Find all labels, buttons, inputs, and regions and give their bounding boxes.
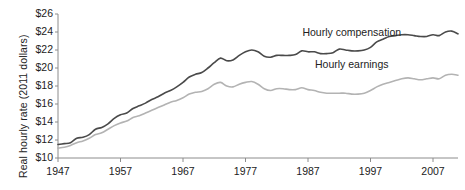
x-axis-tick-label: 2007	[413, 166, 453, 177]
chart-container: Real hourly rate (2011 dollars) $10$12$1…	[0, 0, 465, 190]
series-line-hourly-earnings	[58, 74, 458, 148]
data-series-group	[58, 31, 458, 148]
x-axis-tick-label: 1977	[226, 166, 266, 177]
y-axis-tick-label: $26	[35, 8, 53, 19]
series-label-hourly-earnings: Hourly earnings	[315, 59, 389, 70]
y-axis-tick-label: $22	[35, 44, 53, 55]
x-axis-tick-label: 1967	[163, 166, 203, 177]
y-axis-tick-label: $20	[35, 62, 53, 73]
y-axis-tick-label: $10	[35, 152, 53, 163]
series-label-hourly-compensation: Hourly compensation	[302, 27, 401, 38]
y-axis-tick-labels: $10$12$14$16$18$20$22$24$26	[20, 0, 53, 190]
y-axis-tick-label: $16	[35, 98, 53, 109]
x-axis-tick-label: 1997	[351, 166, 391, 177]
y-axis-tick-label: $12	[35, 134, 53, 145]
x-axis-tick-label: 1957	[101, 166, 141, 177]
y-axis-tick-label: $24	[35, 26, 53, 37]
y-axis-tick-label: $18	[35, 80, 53, 91]
y-axis-tick-label: $14	[35, 116, 53, 127]
x-axis-tick-label: 1987	[288, 166, 328, 177]
series-line-hourly-compensation	[58, 31, 458, 144]
y-axis-label-container: Real hourly rate (2011 dollars)	[0, 0, 22, 190]
x-axis-ticks	[58, 158, 433, 162]
x-axis-tick-label: 1947	[38, 166, 78, 177]
